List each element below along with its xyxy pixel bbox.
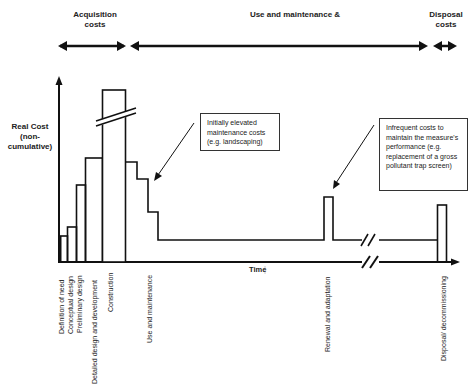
stage-label-disposal-decommissioning: Disposal/ decommissioning xyxy=(440,276,447,361)
bar-disposal-decommissioning xyxy=(438,205,447,262)
stage-label-construction: Construction xyxy=(107,273,114,312)
stage-label-detailed-design: Detailed design and development xyxy=(91,280,98,384)
bar-conceptual-design xyxy=(68,227,77,262)
cost-line-break-marks xyxy=(361,234,375,246)
stage-label-use-and-maintenance: Use and maintenance xyxy=(146,275,153,343)
callout-maintenance: Initially elevated maintenance costs (e.… xyxy=(200,113,280,151)
stage-label-preliminary-design: Preliminary design xyxy=(76,275,83,333)
y-axis xyxy=(56,76,63,263)
bar-definition-edge xyxy=(59,236,62,262)
phase-arrow-acquisition xyxy=(58,41,126,51)
phase-arrow-use xyxy=(130,41,428,51)
callout-infrequent: Infrequent costs to maintain the measure… xyxy=(379,118,468,191)
phase-arrow-disposal xyxy=(433,41,457,51)
use-maintenance-cost-line xyxy=(125,162,362,240)
callout-arrow-maintenance xyxy=(154,123,194,181)
x-axis-label: Time xyxy=(249,265,266,274)
bar-detailed-design xyxy=(86,158,103,262)
callout-arrow-infrequent xyxy=(333,125,374,189)
stage-label-conceptual-design: Conceptual design xyxy=(67,276,74,334)
stage-label-definition-of-need: Definition of need xyxy=(58,280,65,334)
stage-label-renewal-and-adaptation: Renewal and adaptation xyxy=(324,276,331,352)
bar-preliminary-design xyxy=(77,185,86,262)
